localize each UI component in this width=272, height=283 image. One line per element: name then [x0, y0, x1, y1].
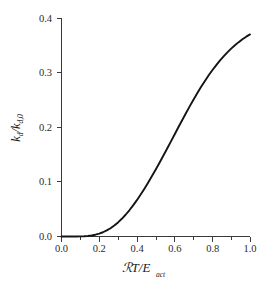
y-axis-title-sub-d0: d,0: [16, 114, 25, 124]
x-tick-label: 1.0: [243, 243, 256, 254]
x-tick-label: 0.6: [168, 243, 181, 254]
x-axis-title-main: T/E: [132, 260, 151, 275]
x-tick-label: 0.4: [131, 243, 145, 254]
x-axis-title-subscript: act: [156, 270, 166, 279]
y-tick-label: 0.2: [39, 122, 52, 133]
x-tick-label: 0.2: [93, 243, 106, 254]
svg-text:ℛT/E: ℛT/E: [122, 260, 151, 275]
y-tick-label: 0.4: [39, 13, 53, 24]
y-tick-label: 0.1: [39, 176, 52, 187]
y-axis-title-slash-k: /k: [9, 123, 23, 133]
x-tick-label: 0.0: [55, 243, 68, 254]
y-tick-label: 0.0: [39, 231, 52, 242]
y-tick-label: 0.3: [39, 67, 52, 78]
x-tick-label: 0.8: [206, 243, 219, 254]
chart-figure: 0.0 0.1 0.2 0.3 0.4 0.0 0.2 0.4 0.6 0.8 …: [0, 0, 272, 283]
